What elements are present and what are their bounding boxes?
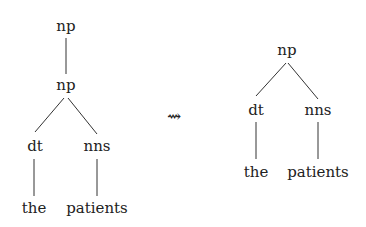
right-dt-node: dt — [248, 101, 264, 119]
left-the-leaf: the — [22, 199, 47, 217]
edge-np-nns-right — [288, 63, 318, 99]
edge-np-nns-left — [68, 98, 97, 134]
squiggly-arrow-icon: ⇝ — [167, 106, 181, 126]
edge-np-dt-right — [256, 63, 286, 96]
left-patients-leaf: patients — [66, 199, 128, 217]
left-root-node: np — [56, 17, 75, 35]
left-np-node: np — [56, 76, 75, 94]
right-nns-node: nns — [304, 101, 331, 119]
right-patients-leaf: patients — [287, 163, 349, 181]
left-dt-node: dt — [27, 137, 43, 155]
right-root-node: np — [277, 41, 296, 59]
right-the-leaf: the — [244, 163, 269, 181]
left-nns-node: nns — [83, 137, 110, 155]
edge-np-dt-left — [35, 98, 64, 132]
